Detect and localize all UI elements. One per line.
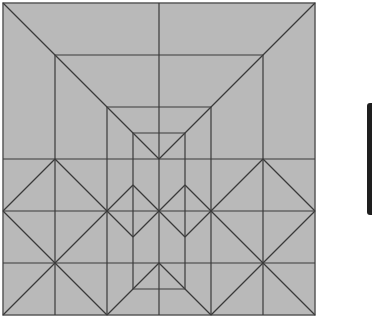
crease-lines <box>3 3 315 315</box>
side-bar-shape <box>367 103 372 215</box>
crease-pattern-diagram <box>0 0 320 318</box>
